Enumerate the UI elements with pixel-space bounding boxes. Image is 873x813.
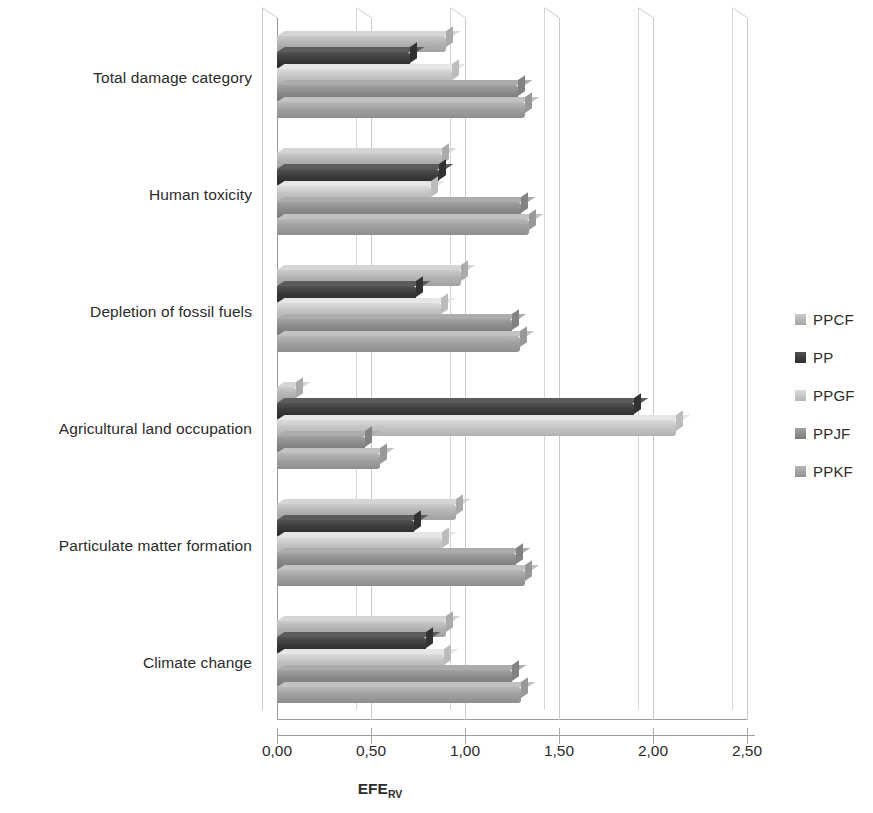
x-axis-title-subscript: RV — [388, 788, 402, 800]
bar — [277, 453, 380, 469]
x-axis-tick-label: 1,50 — [544, 742, 574, 760]
bar-group — [277, 621, 747, 703]
bar-top-face — [277, 97, 540, 102]
bar-end-face — [296, 377, 303, 398]
x-axis-line — [277, 735, 755, 736]
x-axis-tick-label: 0,50 — [356, 742, 386, 760]
bar-end-face — [529, 209, 536, 230]
legend-swatch-icon — [795, 352, 806, 363]
bar-top-face — [277, 331, 534, 336]
bar-end-face — [518, 75, 525, 96]
bar-end-face — [410, 42, 417, 63]
x-axis-tick-label: 0,00 — [262, 742, 292, 760]
category-label: Agricultural land occupation — [0, 420, 252, 437]
category-axis-labels: Total damage categoryHuman toxicityDeple… — [0, 8, 252, 720]
legend-item[interactable]: PPKF — [795, 452, 873, 490]
x-axis-tick-label: 2,50 — [732, 742, 762, 760]
legend-swatch-icon — [795, 466, 806, 477]
bar-end-face — [431, 176, 438, 197]
bar-top-face — [277, 197, 536, 202]
bar-end-face — [525, 92, 532, 113]
category-label: Climate change — [0, 654, 252, 671]
bar-top-face — [277, 298, 455, 303]
gridline-front — [747, 18, 748, 720]
x-axis: 0,000,501,001,502,002,50 — [262, 720, 782, 770]
bar-end-face — [365, 426, 372, 447]
bar-top-face — [277, 64, 466, 69]
bar-end-face — [414, 510, 421, 531]
bar — [277, 336, 520, 352]
bar-top-face — [277, 565, 540, 570]
bar-end-face — [446, 26, 453, 47]
bar-end-face — [380, 443, 387, 464]
legend: PPCFPPPPGFPPJFPPKF — [795, 300, 873, 490]
bar-top-face — [277, 164, 453, 169]
bar-top-face — [277, 415, 690, 420]
bar-top-face — [277, 632, 440, 637]
bar-group — [277, 387, 747, 469]
legend-swatch-icon — [795, 428, 806, 439]
bar — [277, 102, 525, 118]
bar-end-face — [439, 159, 446, 180]
bar-top-face — [277, 616, 461, 621]
chart-floor — [277, 18, 747, 720]
legend-label: PPGF — [813, 387, 855, 404]
bar-top-face — [277, 499, 470, 504]
legend-label: PPCF — [813, 311, 854, 328]
bar-end-face — [446, 611, 453, 632]
x-axis-tick-label: 1,00 — [450, 742, 480, 760]
category-label: Depletion of fossil fuels — [0, 303, 252, 320]
bar-top-face — [277, 265, 476, 270]
legend-item[interactable]: PPGF — [795, 376, 873, 414]
bar-top-face — [277, 649, 459, 654]
gridline-front — [371, 18, 372, 720]
bar — [277, 219, 529, 235]
legend-swatch-icon — [795, 390, 806, 401]
bar-top-face — [277, 181, 446, 186]
bar-top-face — [277, 448, 395, 453]
gridline-front — [559, 18, 560, 720]
bar-end-face — [441, 293, 448, 314]
bar-top-face — [277, 314, 526, 319]
x-axis-title-base: EFE — [358, 780, 388, 797]
x-axis-tick-label: 2,00 — [638, 742, 668, 760]
bar-end-face — [521, 677, 528, 698]
bar — [277, 570, 525, 586]
bar-chart: Total damage categoryHuman toxicityDeple… — [0, 0, 873, 813]
legend-item[interactable]: PPJF — [795, 414, 873, 452]
bar-end-face — [452, 59, 459, 80]
category-label: Human toxicity — [0, 186, 252, 203]
bar-group — [277, 504, 747, 586]
bar-top-face — [277, 214, 543, 219]
bar-end-face — [426, 627, 433, 648]
bar-end-face — [520, 326, 527, 347]
bar-end-face — [525, 560, 532, 581]
gridline-front — [465, 18, 466, 720]
bar-end-face — [676, 410, 683, 431]
bar-end-face — [516, 543, 523, 564]
bar-group — [277, 270, 747, 352]
bar-group — [277, 153, 747, 235]
bar-top-face — [277, 281, 431, 286]
legend-label: PPJF — [813, 425, 850, 442]
bar-top-face — [277, 148, 457, 153]
legend-swatch-icon — [795, 314, 806, 325]
legend-item[interactable]: PPCF — [795, 300, 873, 338]
bar-top-face — [277, 665, 526, 670]
bar-group — [277, 36, 747, 118]
bar-top-face — [277, 382, 310, 387]
bar-end-face — [512, 309, 519, 330]
plot-area — [262, 8, 762, 720]
legend-label: PPKF — [813, 463, 853, 480]
bar-top-face — [277, 532, 457, 537]
bar-end-face — [521, 192, 528, 213]
bar-top-face — [277, 515, 429, 520]
bar-end-face — [461, 260, 468, 281]
legend-item[interactable]: PP — [795, 338, 873, 376]
bar-end-face — [444, 644, 451, 665]
bar-end-face — [442, 527, 449, 548]
category-label: Particulate matter formation — [0, 537, 252, 554]
bar-top-face — [277, 398, 649, 403]
bar-top-face — [277, 548, 530, 553]
depth-connector — [732, 7, 748, 18]
